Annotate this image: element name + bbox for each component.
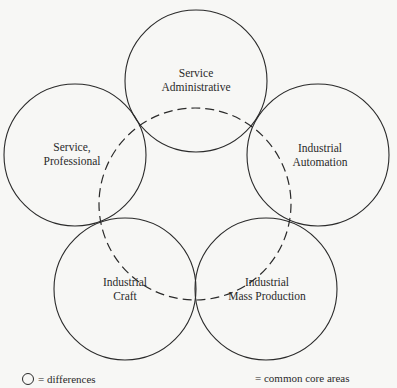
label-line: Industrial — [293, 141, 348, 155]
core-dashed-circle — [99, 108, 291, 300]
label-industrial-craft: Industrial Craft — [103, 275, 147, 303]
label-line: Professional — [44, 154, 101, 168]
legend-differences-label: = differences — [38, 373, 96, 385]
circle-diagram — [0, 0, 397, 388]
label-service-professional: Service, Professional — [44, 140, 101, 168]
legend-common-core-label: = common core areas — [255, 372, 349, 384]
label-line: Administrative — [162, 80, 231, 94]
label-line: Service, — [44, 140, 101, 154]
label-line: Craft — [103, 289, 147, 303]
legend-differences: = differences — [22, 373, 96, 385]
label-industrial-mass-production: Industrial Mass Production — [228, 275, 306, 303]
circle-icon — [22, 373, 34, 385]
legend-common-core: = common core areas — [255, 372, 349, 384]
label-line: Industrial — [103, 275, 147, 289]
label-service-administrative: Service Administrative — [162, 66, 231, 94]
label-line: Industrial — [228, 275, 306, 289]
label-line: Mass Production — [228, 289, 306, 303]
label-line: Service — [162, 66, 231, 80]
label-line: Automation — [293, 155, 348, 169]
label-industrial-automation: Industrial Automation — [293, 141, 348, 169]
